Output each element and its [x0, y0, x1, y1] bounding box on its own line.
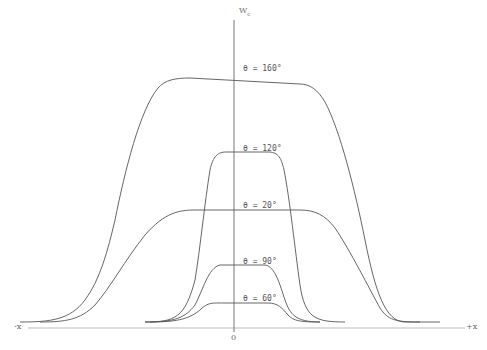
- series-label-90-deg: θ = 90°: [243, 257, 277, 267]
- series-label-60-deg: θ = 60°: [243, 294, 277, 304]
- y-axis-label-sub: c: [247, 10, 250, 17]
- curves-group: [20, 78, 440, 322]
- y-axis-label: Wc: [239, 6, 251, 17]
- curve-160-deg: [20, 78, 440, 322]
- x-axis-positive-label: +x: [466, 322, 477, 332]
- origin-label: 0: [231, 333, 236, 343]
- series-label-20-deg: θ = 20°: [243, 201, 277, 211]
- series-label-160-deg: θ = 160°: [243, 64, 282, 74]
- curve-20-deg: [40, 210, 420, 322]
- series-label-120-deg: θ = 120°: [243, 144, 282, 154]
- curve-90-deg: [145, 265, 320, 322]
- y-axis-label-main: W: [239, 6, 247, 15]
- x-axis-negative-label: -x: [14, 322, 21, 332]
